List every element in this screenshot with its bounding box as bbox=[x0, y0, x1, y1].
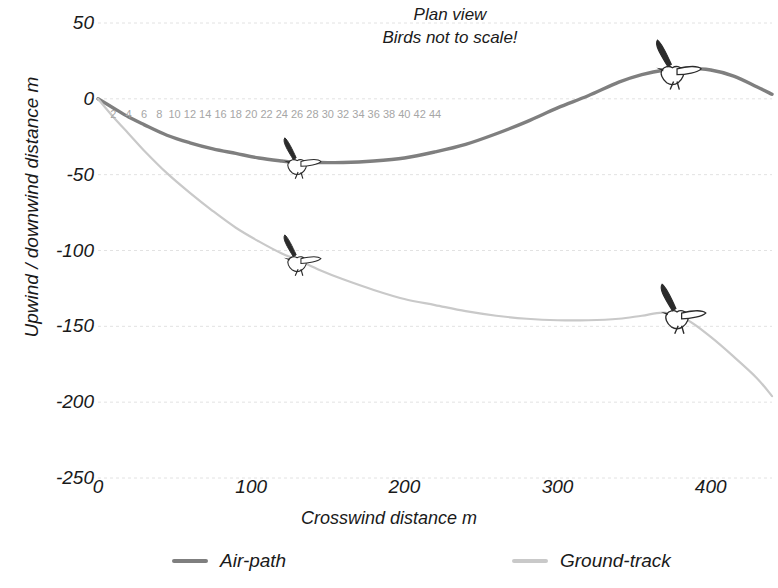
legend-swatch-ground-track bbox=[512, 559, 548, 563]
bird-icon bbox=[284, 235, 321, 276]
series-line-ground-track bbox=[98, 99, 772, 396]
legend-swatch-air-path bbox=[172, 559, 208, 563]
y-axis-ticks: 500-50-100-150-200-250 bbox=[0, 0, 94, 588]
x-axis-tick-label: 400 bbox=[676, 476, 746, 498]
bird-wing-left bbox=[284, 138, 296, 160]
bird-wing-left bbox=[661, 284, 676, 310]
bird-wing-right bbox=[682, 311, 706, 319]
x-axis-label: Crosswind distance m bbox=[0, 508, 778, 529]
bird-wing-right bbox=[677, 67, 701, 75]
x-axis-tick-label: 0 bbox=[63, 476, 133, 498]
x-axis-tick-label: 300 bbox=[523, 476, 593, 498]
legend-label-air-path: Air-path bbox=[220, 550, 286, 572]
x-axis-tick-label: 200 bbox=[369, 476, 439, 498]
legend-item-ground-track[interactable]: Ground-track bbox=[512, 550, 671, 572]
plot-area bbox=[0, 0, 778, 588]
legend-label-ground-track: Ground-track bbox=[560, 550, 671, 572]
chart-container: Plan view Birds not to scale! 500-50-100… bbox=[0, 0, 778, 588]
y-axis-label: Upwind / downwind distance m bbox=[21, 7, 43, 407]
bird-wing-right bbox=[301, 257, 321, 264]
x-axis-tick-label: 100 bbox=[216, 476, 286, 498]
legend-item-air-path[interactable]: Air-path bbox=[172, 550, 286, 572]
secondary-x-axis-tick-label: 44 bbox=[417, 108, 453, 120]
bird-wing-left bbox=[657, 40, 672, 66]
bird-icon bbox=[656, 40, 701, 89]
chart-legend: Air-path Ground-track bbox=[0, 550, 778, 584]
bird-wing-left bbox=[284, 235, 296, 257]
bird-wing-right bbox=[301, 160, 321, 167]
bird-icon bbox=[284, 138, 321, 179]
